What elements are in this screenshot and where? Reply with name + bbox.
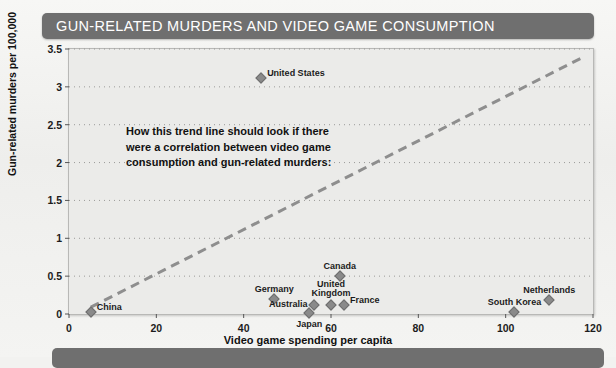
x-tick-label: 120	[584, 322, 602, 334]
y-tick-label: 3.5	[47, 43, 62, 55]
data-point-label: China	[97, 302, 122, 312]
y-tick-label: 3	[56, 81, 62, 93]
data-point-label: United States	[267, 68, 325, 78]
y-tick-label: 2.5	[47, 119, 62, 131]
data-point-label: Netherlands	[523, 285, 575, 295]
footer-banner	[52, 348, 604, 368]
y-tick-label: 0.5	[47, 270, 62, 282]
x-tick-label: 100	[497, 322, 515, 334]
page-title: GUN-RELATED MURDERS AND VIDEO GAME CONSU…	[42, 18, 495, 34]
plot-area: 00.511.522.533.5 020406080100120 United …	[68, 48, 594, 315]
x-tick-label: 80	[412, 322, 424, 334]
y-tick-label: 1	[56, 232, 62, 244]
data-point-label: Japan	[296, 319, 322, 329]
x-tick-label: 0	[66, 322, 72, 334]
data-point-label: Canada	[323, 261, 356, 271]
x-tick-label: 60	[325, 322, 337, 334]
y-tick-label: 0	[56, 308, 62, 320]
plot-svg	[69, 49, 593, 314]
x-axis-title: Video game spending per capita	[0, 334, 616, 346]
y-tick-label: 1.5	[47, 194, 62, 206]
data-point-label: France	[350, 295, 380, 305]
chart-title-banner: GUN-RELATED MURDERS AND VIDEO GAME CONSU…	[42, 13, 594, 39]
x-tick-label: 20	[150, 322, 162, 334]
data-point-label: South Korea	[488, 297, 542, 307]
data-point-label: Germany	[255, 284, 294, 294]
data-point-label: UnitedKingdom	[312, 280, 351, 299]
trend-line-annotation: How this trend line should look if there…	[126, 124, 351, 171]
y-tick-label: 2	[56, 157, 62, 169]
data-point-label: Australia	[269, 299, 308, 309]
x-tick-label: 40	[238, 322, 250, 334]
y-axis-title: Gun-related murders per 100,000	[6, 12, 18, 176]
